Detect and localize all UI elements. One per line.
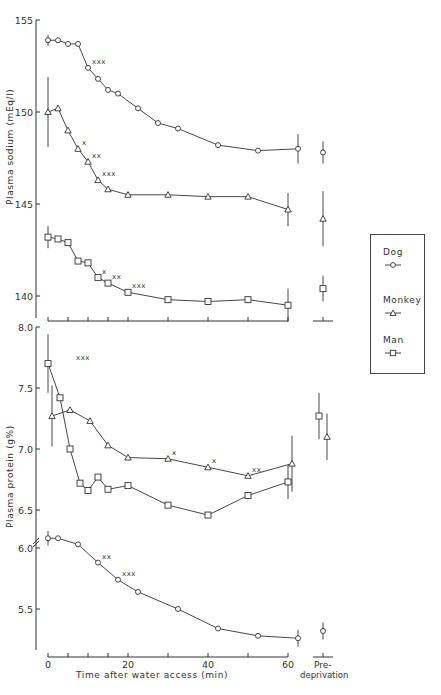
man-marker <box>285 479 291 485</box>
series-man: xxxxxx <box>45 226 326 322</box>
series-monkey: xxxxxx <box>45 77 326 246</box>
legend-label-dog: Dog <box>383 247 403 257</box>
y-tick-label: 140 <box>15 291 33 302</box>
dog-marker <box>96 560 101 565</box>
man-marker <box>205 512 211 518</box>
monkey-predeprivation-marker <box>320 216 326 222</box>
dog-marker <box>296 636 301 641</box>
dog-marker <box>46 38 51 43</box>
dog-marker <box>76 542 81 547</box>
man-marker <box>67 446 73 452</box>
dog-marker <box>86 65 91 70</box>
sodium-panel: 155150145140xxxxxxxxxxxxxxx <box>15 15 326 322</box>
significance-label: xx <box>112 273 121 281</box>
dog-marker <box>216 143 221 148</box>
monkey-marker <box>95 177 101 183</box>
dog-marker <box>56 38 61 43</box>
y-tick-label: 5.5 <box>18 604 33 615</box>
monkey-marker <box>67 407 73 413</box>
monkey-marker <box>55 105 61 111</box>
significance-label: x <box>102 268 107 276</box>
y-tick-label: 6.0 <box>18 543 33 554</box>
monkey-marker <box>75 146 81 152</box>
man-marker <box>75 258 81 264</box>
monkey-marker <box>65 127 71 133</box>
legend-label-monkey: Monkey <box>383 295 421 305</box>
significance-label: x <box>82 139 87 147</box>
x-tick-label: 40 <box>202 659 214 670</box>
significance-label: x <box>212 457 217 465</box>
man-marker <box>57 395 63 401</box>
dog-marker <box>106 87 111 92</box>
dog-marker <box>256 633 261 638</box>
monkey-predeprivation-marker <box>324 434 330 440</box>
y-tick-label: 7.0 <box>18 444 33 455</box>
y-axis-title-sodium: Plasma sodium (mEq/l) <box>5 89 15 205</box>
dog-marker <box>176 607 181 612</box>
man-marker <box>125 483 131 489</box>
dog-marker <box>176 126 181 131</box>
man-marker <box>245 493 251 499</box>
man-marker <box>85 487 91 493</box>
significance-label: xxx <box>92 58 106 66</box>
man-marker <box>125 289 131 295</box>
significance-label: xx <box>252 466 261 474</box>
series-dog: xxx <box>46 35 326 164</box>
dog-marker <box>296 146 301 151</box>
y-tick-label: 6.5 <box>18 505 33 516</box>
dog-marker <box>216 626 221 631</box>
significance-label: xx <box>102 553 111 561</box>
dog-marker <box>116 91 121 96</box>
man-predeprivation-marker <box>320 286 326 292</box>
man-marker <box>205 299 211 305</box>
man-marker <box>95 275 101 281</box>
x-axis-title: Time after water access (min) <box>75 670 228 680</box>
man-marker <box>65 240 71 246</box>
dog-marker <box>116 577 121 582</box>
y-axis-title-protein: Plasma protein (g%) <box>5 425 15 528</box>
dog-marker <box>46 536 51 541</box>
significance-label: xxx <box>132 282 146 290</box>
dog-marker <box>136 589 141 594</box>
dog-predeprivation-marker <box>321 150 326 155</box>
dog-marker <box>136 106 141 111</box>
dog-marker <box>66 41 71 46</box>
man-marker <box>105 486 111 492</box>
significance-label: xxx <box>76 354 90 362</box>
man-marker <box>95 474 101 480</box>
legend-label-man: Man <box>383 335 404 345</box>
x-tick-label: 60 <box>282 659 294 670</box>
significance-label: xxx <box>122 570 136 578</box>
man-predeprivation-marker <box>316 413 322 419</box>
dog-predeprivation-marker <box>321 628 326 633</box>
man-marker <box>285 302 291 308</box>
significance-label: xx <box>92 152 101 160</box>
man-marker <box>245 297 251 303</box>
significance-label: x <box>172 449 177 457</box>
dog-marker <box>76 41 81 46</box>
man-marker <box>77 480 83 486</box>
dog-marker <box>256 148 261 153</box>
dog-marker <box>156 121 161 126</box>
man-marker <box>85 260 91 266</box>
dog-marker <box>96 76 101 81</box>
significance-label: xxx <box>102 170 116 178</box>
monkey-marker <box>289 460 295 466</box>
y-tick-label: 155 <box>15 15 33 26</box>
series-man: xxx <box>45 334 322 518</box>
monkey-marker <box>87 418 93 424</box>
y-tick-label: 8.0 <box>18 322 33 333</box>
x-tick-label: 20 <box>122 659 134 670</box>
man-marker <box>55 236 61 242</box>
y-tick-label: 150 <box>15 107 33 118</box>
predeprivation-label-2: deprivation <box>300 670 348 680</box>
series-dog: xxxxx <box>46 531 326 647</box>
dog-marker <box>56 536 61 541</box>
man-marker <box>45 361 51 367</box>
legend: Dog Monkey Man <box>370 234 425 374</box>
man-marker <box>45 234 51 240</box>
x-tick-label: 0 <box>45 659 51 670</box>
predeprivation-label-1: Pre- <box>314 660 332 670</box>
man-marker <box>165 502 171 508</box>
man-marker <box>105 280 111 286</box>
